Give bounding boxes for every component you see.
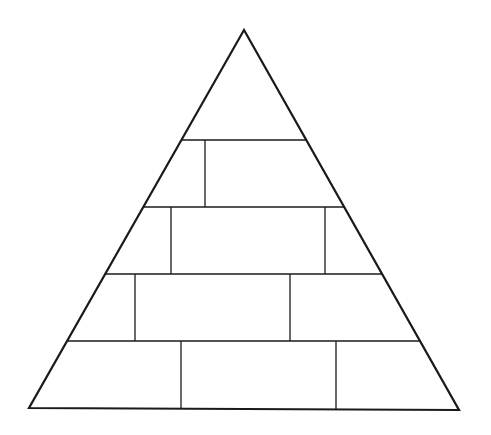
row-lines xyxy=(67,140,420,341)
pyramid-diagram xyxy=(0,0,491,435)
pyramid-outline xyxy=(29,30,459,410)
pyramid-canvas xyxy=(0,0,491,435)
